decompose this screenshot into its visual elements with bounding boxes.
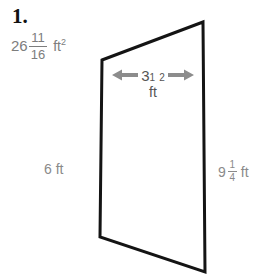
right-side-label: 9 1 4 ft (218, 160, 249, 183)
worksheet-figure-canvas: 1. 26 11 16 ft2 3 1 2 (0, 0, 267, 277)
left-side-label: 6 ft (44, 162, 63, 176)
top-dimension-unit: ft (104, 85, 202, 99)
arrow-left-icon (112, 68, 138, 82)
top-dimension-whole: 3 (141, 68, 149, 83)
left-side-label-text: 6 ft (44, 162, 63, 176)
top-dimension-row: 3 1 2 (104, 66, 202, 84)
top-dimension-denominator: 2 (159, 72, 165, 83)
trapezoid-outline (100, 22, 205, 272)
top-dimension-fraction: 1 2 (150, 68, 165, 83)
right-side-denominator: 4 (229, 173, 237, 184)
right-side-whole: 9 (218, 165, 226, 179)
top-dimension-numerator: 1 (150, 72, 156, 83)
right-side-numerator: 1 (229, 160, 237, 171)
right-side-fraction: 1 4 (228, 160, 237, 183)
top-dimension-annotation: 3 1 2 ft (104, 66, 202, 102)
trapezoid-shape (0, 0, 267, 277)
right-side-unit: ft (241, 165, 249, 179)
top-dimension-value: 3 1 2 (141, 68, 165, 83)
arrow-right-icon (168, 68, 194, 82)
